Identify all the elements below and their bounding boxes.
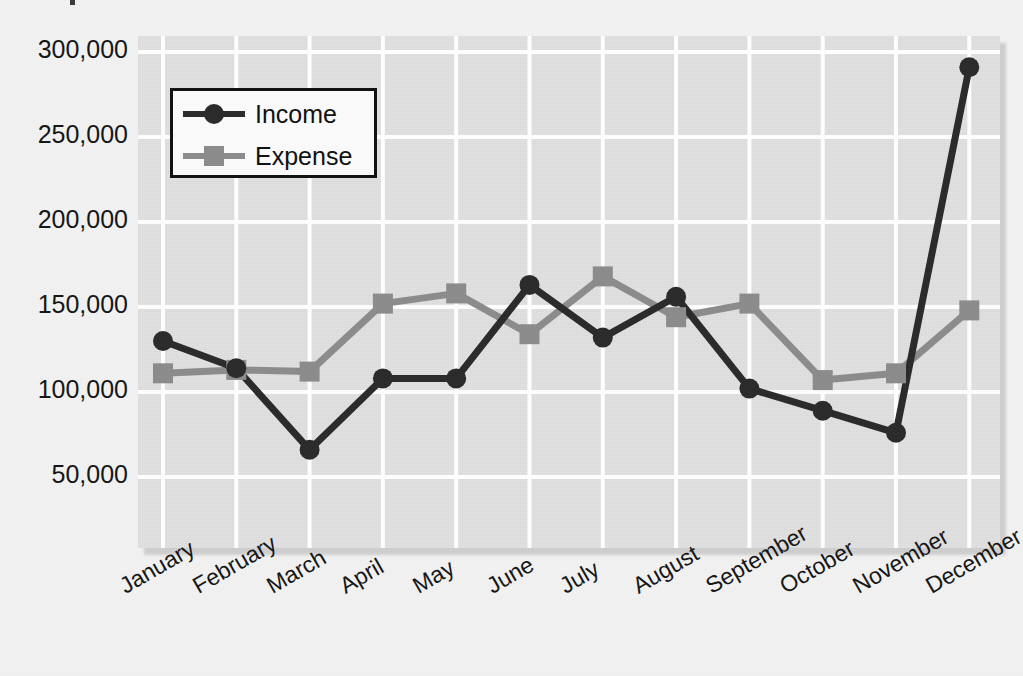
legend-label-income: Income [255,100,337,129]
data-point-square [446,283,466,303]
data-point-square [300,362,320,382]
data-point-circle [886,423,906,443]
data-point-circle [520,275,540,295]
data-point-circle [446,368,466,388]
y-axis-tick-labels: 50,000100,000150,000200,000250,000300,00… [0,0,128,676]
legend-swatch-income [181,93,247,135]
legend-item-income: Income [173,93,374,135]
data-point-circle [666,287,686,307]
data-point-square [373,294,393,314]
data-point-square [593,266,613,286]
y-tick-label: 100,000 [38,375,128,404]
data-point-circle [300,440,320,460]
data-point-square [739,294,759,314]
series-line-expense [163,276,969,380]
data-point-circle [373,368,393,388]
data-point-circle [959,57,979,77]
legend-swatch-expense [181,135,247,177]
data-point-square [666,307,686,327]
legend-label-expense: Expense [255,142,352,171]
line-chart: 50,000100,000150,000200,000250,000300,00… [0,0,1023,676]
data-point-circle [226,358,246,378]
y-tick-label: 250,000 [38,120,128,149]
y-tick-label: 150,000 [38,290,128,319]
y-tick-label: 50,000 [52,460,128,489]
data-point-circle [813,401,833,421]
circle-marker-icon [204,104,224,124]
legend-item-expense: Expense [173,135,374,177]
chart-legend: Income Expense [170,88,377,178]
data-point-square [153,363,173,383]
square-marker-icon [204,146,224,166]
y-tick-label: 300,000 [38,35,128,64]
data-point-square [813,370,833,390]
data-point-square [886,363,906,383]
data-point-circle [593,328,613,348]
data-point-square [520,324,540,344]
data-point-circle [739,379,759,399]
data-point-circle [153,331,173,351]
data-point-square [959,300,979,320]
y-tick-label: 200,000 [38,205,128,234]
